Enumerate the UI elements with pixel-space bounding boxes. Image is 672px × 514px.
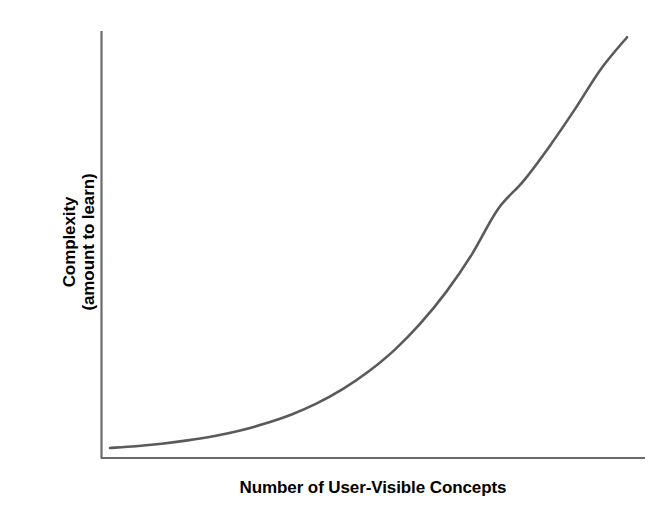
y-axis-label-line-1: Complexity xyxy=(60,197,79,288)
x-axis-label: Number of User-Visible Concepts xyxy=(101,478,645,498)
y-axis-label-line-2: (amount to learn) xyxy=(79,173,98,310)
chart-figure: Complexity (amount to learn) Number of U… xyxy=(0,0,672,514)
y-axis-label: Complexity (amount to learn) xyxy=(53,132,105,352)
